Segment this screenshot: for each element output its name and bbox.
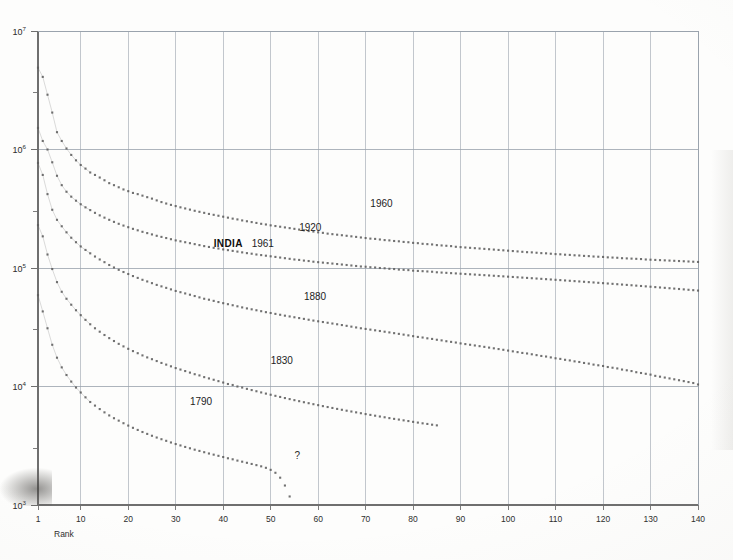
data-point (360, 327, 362, 329)
data-point (279, 477, 281, 479)
data-point (137, 429, 139, 431)
data-point (441, 244, 443, 246)
data-point (246, 307, 248, 309)
data-point (241, 386, 243, 388)
x-tick-label-50: 50 (266, 514, 276, 524)
data-point (293, 399, 295, 401)
data-point (607, 282, 609, 284)
data-point (279, 396, 281, 398)
data-point (649, 259, 651, 261)
data-point (379, 267, 381, 269)
data-point (241, 306, 243, 308)
data-point (355, 236, 357, 238)
data-point (654, 286, 656, 288)
data-point (635, 371, 637, 373)
data-point (89, 401, 91, 403)
data-point (460, 342, 462, 344)
data-point (65, 231, 67, 233)
data-point (122, 422, 124, 424)
data-point (645, 373, 647, 375)
data-point (42, 174, 44, 176)
data-point (588, 363, 590, 365)
data-point (103, 217, 105, 219)
data-point (208, 299, 210, 301)
x-tick-label-110: 110 (549, 514, 563, 524)
data-point (113, 266, 115, 268)
data-point (156, 436, 158, 438)
data-point (616, 283, 618, 285)
x-tick-label-140: 140 (691, 514, 705, 524)
data-point (279, 257, 281, 259)
data-point (260, 391, 262, 393)
data-point (246, 462, 248, 464)
data-point (84, 206, 86, 208)
data-point (203, 245, 205, 247)
data-point (113, 417, 115, 419)
x-tick-label-80: 80 (408, 514, 418, 524)
data-point (441, 272, 443, 274)
data-point (398, 419, 400, 421)
data-point (284, 257, 286, 259)
data-point (274, 225, 276, 227)
data-point (350, 235, 352, 237)
data-point (659, 286, 661, 288)
data-point (65, 147, 67, 149)
data-point (232, 458, 234, 460)
data-point (170, 441, 172, 443)
data-point (151, 198, 153, 200)
data-point (127, 190, 129, 192)
data-point (213, 300, 215, 302)
data-point (170, 204, 172, 206)
data-point (659, 259, 661, 261)
data-point (108, 182, 110, 184)
data-point (194, 373, 196, 375)
data-point (583, 255, 585, 257)
series-annotation-1790: 1790 (190, 396, 213, 407)
data-point (113, 340, 115, 342)
data-point (312, 403, 314, 405)
data-point (626, 369, 628, 371)
data-point (265, 255, 267, 257)
data-point (265, 223, 267, 225)
data-point (664, 287, 666, 289)
data-point (151, 435, 153, 437)
data-point (227, 457, 229, 459)
data-point (369, 238, 371, 240)
data-point (441, 339, 443, 341)
data-point (412, 270, 414, 272)
data-point (42, 235, 44, 237)
data-point (365, 328, 367, 330)
data-point (398, 333, 400, 335)
data-point (151, 358, 153, 360)
data-point (469, 344, 471, 346)
data-point (673, 378, 675, 380)
data-point (683, 288, 685, 290)
data-point (374, 266, 376, 268)
data-point (270, 469, 272, 471)
data-point (56, 219, 58, 221)
data-point (379, 238, 381, 240)
data-point (455, 246, 457, 248)
x-tick-label-1: 1 (36, 514, 41, 524)
data-point (479, 274, 481, 276)
data-point (488, 274, 490, 276)
data-point (483, 346, 485, 348)
x-tick-label-60: 60 (313, 514, 323, 524)
series-annotation-india: INDIA (214, 238, 243, 249)
data-point (303, 401, 305, 403)
data-point (630, 284, 632, 286)
data-point (179, 369, 181, 371)
data-point (550, 278, 552, 280)
data-point (80, 203, 82, 205)
data-point (341, 234, 343, 236)
data-point (365, 266, 367, 268)
data-point (517, 250, 519, 252)
data-point (455, 272, 457, 274)
data-point (412, 421, 414, 423)
data-point (156, 284, 158, 286)
data-point (46, 327, 48, 329)
data-point (46, 193, 48, 195)
data-point (127, 425, 129, 427)
data-point (388, 417, 390, 419)
data-point (317, 404, 319, 406)
